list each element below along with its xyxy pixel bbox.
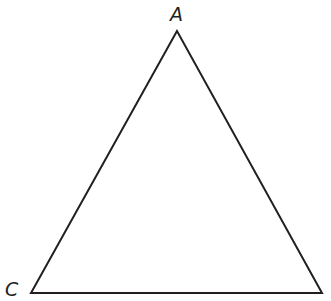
triangle-shape bbox=[31, 31, 322, 293]
triangle-figure bbox=[0, 0, 331, 301]
vertex-label-c: C bbox=[5, 280, 18, 299]
triangle-diagram: A C bbox=[0, 0, 331, 301]
vertex-label-a: A bbox=[170, 5, 183, 24]
